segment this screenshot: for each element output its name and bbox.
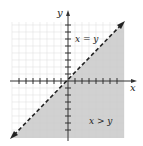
region-label: x > y <box>89 116 113 126</box>
y-axis-arrow-icon <box>66 10 70 16</box>
y-axis-label: y <box>56 7 63 18</box>
boundary-label: x = y <box>75 34 99 44</box>
x-axis-label: x <box>130 82 136 93</box>
inequality-graph: y x x = y x > y <box>0 0 143 146</box>
